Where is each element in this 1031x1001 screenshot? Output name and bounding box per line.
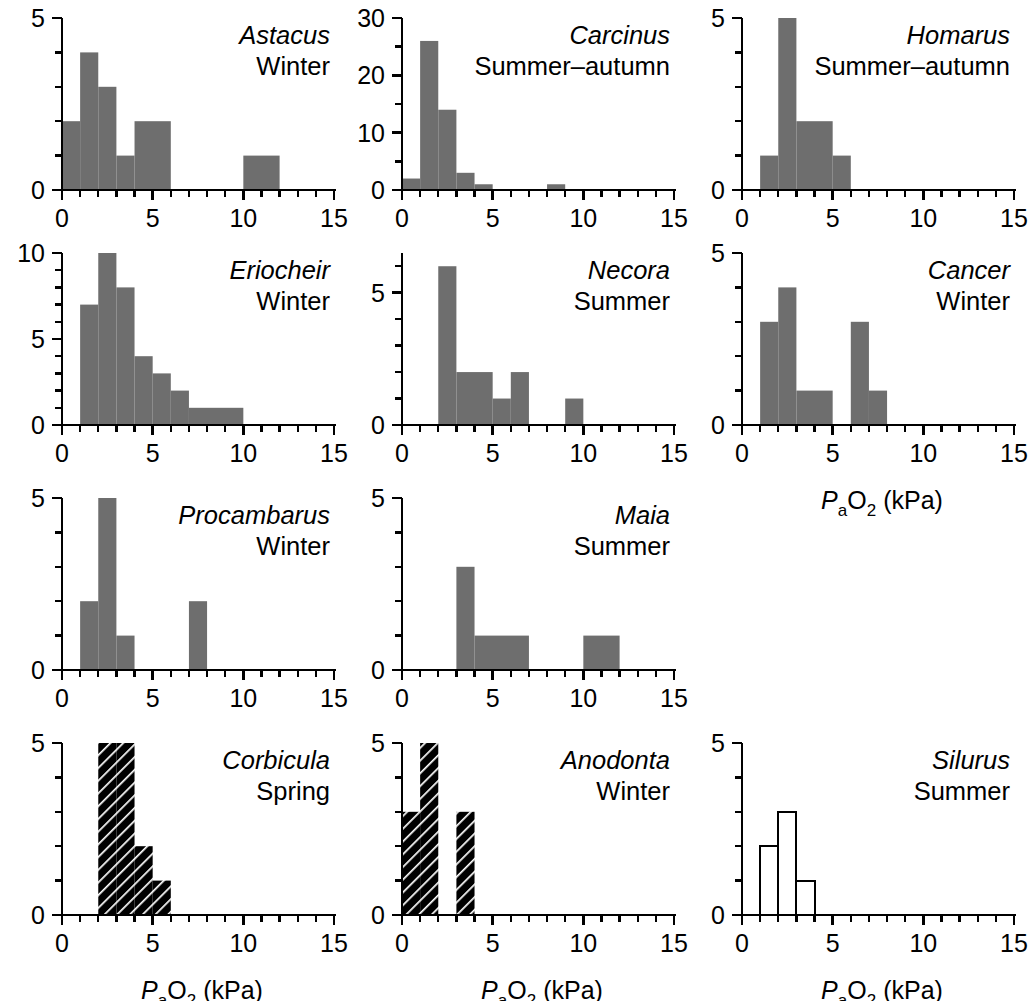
x-axis-title: PaO2 (kPa) — [141, 976, 263, 1001]
histogram-bar — [116, 287, 134, 425]
x-tick-label: 5 — [486, 439, 500, 467]
x-tick-label: 10 — [229, 684, 257, 712]
y-tick-label: 0 — [31, 656, 45, 684]
x-tick-label: 10 — [909, 929, 937, 957]
histogram-bar — [116, 636, 134, 670]
season-label: Spring — [256, 777, 330, 805]
histogram-bar — [565, 399, 583, 425]
species-name: Astacus — [237, 21, 330, 49]
y-tick-label: 5 — [371, 279, 385, 307]
x-tick-label: 5 — [826, 439, 840, 467]
histogram-bar — [778, 287, 796, 425]
species-name: Silurus — [932, 746, 1010, 774]
histogram-bar — [833, 156, 851, 190]
histogram-bar — [402, 812, 420, 915]
histogram-bar — [796, 121, 832, 190]
y-tick-label: 30 — [357, 4, 385, 32]
x-tick-label: 0 — [735, 929, 749, 957]
y-tick-label: 5 — [31, 325, 45, 353]
histogram-bar — [475, 636, 529, 670]
histogram-bar — [583, 636, 619, 670]
histogram-panel-cancer: 05101505CancerWinterPaO2 (kPa) — [680, 235, 1023, 511]
histogram-bar — [438, 110, 456, 190]
histogram-bar — [116, 743, 134, 915]
histogram-bar — [456, 567, 474, 670]
season-label: Winter — [256, 287, 330, 315]
species-name: Cancer — [928, 256, 1012, 284]
y-tick-label: 0 — [711, 411, 725, 439]
x-tick-label: 5 — [146, 204, 160, 232]
histogram-bar — [420, 743, 438, 915]
x-tick-label: 10 — [569, 204, 597, 232]
histogram-bar — [760, 846, 778, 915]
season-label: Summer–autumn — [814, 52, 1010, 80]
histogram-bar — [98, 87, 116, 190]
x-tick-label: 0 — [55, 929, 69, 957]
x-tick-label: 10 — [569, 439, 597, 467]
histogram-panel-silurus: 05101505SilurusSummerPaO2 (kPa) — [680, 725, 1023, 1001]
x-tick-label: 0 — [395, 929, 409, 957]
histogram-bar — [402, 179, 420, 190]
x-axis-title: PaO2 (kPa) — [481, 976, 603, 1001]
histogram-bar — [778, 18, 796, 190]
bars — [402, 743, 475, 915]
y-tick-label: 20 — [357, 61, 385, 89]
x-tick-label: 15 — [1000, 439, 1028, 467]
x-tick-label: 5 — [146, 439, 160, 467]
histogram-bar — [243, 156, 279, 190]
histogram-bar — [80, 52, 98, 190]
species-name: Necora — [588, 256, 670, 284]
histogram-bar — [760, 322, 778, 425]
season-label: Summer — [914, 777, 1011, 805]
x-tick-label: 5 — [146, 684, 160, 712]
x-tick-label: 10 — [569, 929, 597, 957]
bars — [456, 567, 619, 670]
histogram-bar — [456, 372, 492, 425]
x-tick-label: 5 — [826, 929, 840, 957]
histogram-bar — [869, 391, 887, 425]
histogram-bar — [116, 156, 134, 190]
histogram-bar — [80, 305, 98, 425]
histogram-panel-carcinus: 0510150102030CarcinusSummer–autumn — [340, 0, 683, 240]
y-tick-label: 10 — [17, 239, 45, 267]
season-label: Summer — [574, 287, 671, 315]
histogram-bar — [135, 846, 153, 915]
histogram-panel-necora: 05101505NecoraSummer — [340, 235, 683, 475]
bars — [80, 253, 243, 425]
x-tick-label: 5 — [146, 929, 160, 957]
histogram-bar — [851, 322, 869, 425]
season-label: Summer–autumn — [474, 52, 670, 80]
histogram-bar — [438, 266, 456, 425]
histogram-bar — [98, 743, 116, 915]
season-label: Summer — [574, 532, 671, 560]
y-tick-label: 5 — [31, 4, 45, 32]
histogram-bar — [135, 356, 153, 425]
x-tick-label: 10 — [229, 439, 257, 467]
x-tick-label: 10 — [229, 204, 257, 232]
x-axis-title: PaO2 (kPa) — [821, 486, 943, 520]
x-tick-label: 15 — [1000, 204, 1028, 232]
x-tick-label: 0 — [395, 439, 409, 467]
histogram-bar — [62, 121, 80, 190]
bars — [62, 52, 280, 190]
histogram-panel-homarus: 05101505HomarusSummer–autumn — [680, 0, 1023, 240]
bars — [98, 743, 171, 915]
y-tick-label: 0 — [31, 176, 45, 204]
species-name: Anodonta — [559, 746, 670, 774]
y-tick-label: 0 — [31, 901, 45, 929]
histogram-bar — [796, 391, 832, 425]
y-tick-label: 5 — [711, 4, 725, 32]
season-label: Winter — [256, 532, 330, 560]
y-tick-label: 0 — [711, 176, 725, 204]
histogram-bar — [796, 881, 814, 915]
y-tick-label: 5 — [371, 729, 385, 757]
x-tick-label: 0 — [55, 684, 69, 712]
species-name: Maia — [615, 501, 670, 529]
y-tick-label: 5 — [31, 729, 45, 757]
histogram-bar — [98, 253, 116, 425]
x-tick-label: 0 — [395, 204, 409, 232]
x-tick-label: 5 — [486, 929, 500, 957]
histogram-bar — [80, 601, 98, 670]
bars — [760, 18, 851, 190]
x-tick-label: 10 — [909, 204, 937, 232]
